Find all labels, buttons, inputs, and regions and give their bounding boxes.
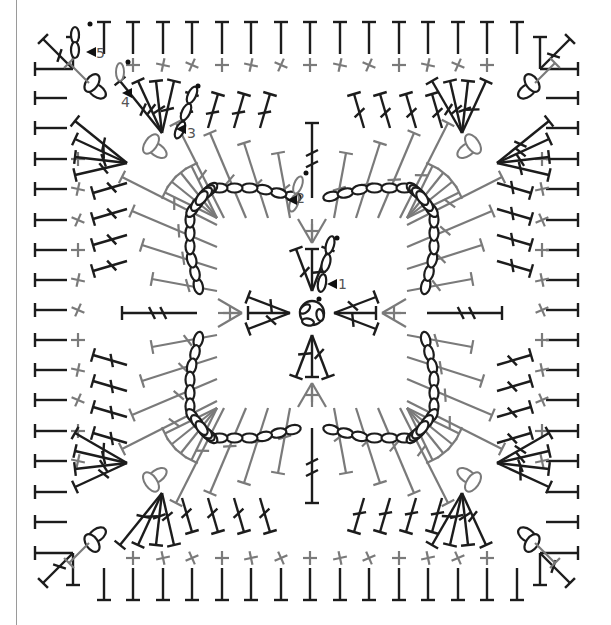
single-crochet-mark xyxy=(272,56,290,74)
single-crochet-mark xyxy=(303,58,317,72)
stitch-stem xyxy=(312,335,328,377)
single-crochet-mark xyxy=(126,551,140,565)
stitch-stem xyxy=(407,357,482,381)
slip-stitch-dot xyxy=(317,297,322,302)
outer-left-stitch xyxy=(35,91,67,105)
outer-top-stitch xyxy=(244,22,258,54)
single-crochet-mark xyxy=(420,57,437,74)
outer-right-stitch xyxy=(546,273,578,287)
chain-stitch xyxy=(382,184,398,193)
stitch-slash xyxy=(511,259,513,272)
outer-left-stitch xyxy=(35,152,67,166)
slip-stitch-dot xyxy=(304,171,309,176)
chain-stitch xyxy=(227,434,243,443)
outer-left-stitch xyxy=(35,485,67,499)
stitch-slash xyxy=(111,432,113,445)
stitch-stem xyxy=(244,143,268,218)
outer-right-stitch xyxy=(546,152,578,166)
outer-top-stitch xyxy=(333,22,347,54)
outer-bottom-stitch xyxy=(215,568,229,600)
black-fan-stitch xyxy=(91,426,127,445)
stitch-top-bar xyxy=(548,150,550,164)
outer-left-stitch xyxy=(35,273,67,287)
stitch-slash xyxy=(353,512,366,514)
stitch-top-bar xyxy=(74,462,76,476)
stitch-stem xyxy=(132,211,217,247)
sc-v xyxy=(77,273,80,287)
single-crochet-mark xyxy=(535,333,549,347)
stitch-stem xyxy=(407,245,482,269)
corner-diagonal-stitch xyxy=(540,553,575,588)
gray-fan-stitch xyxy=(334,408,353,474)
outer-right-stitch xyxy=(546,485,578,499)
sc-v xyxy=(77,182,80,196)
gray-fan-stitch xyxy=(333,152,353,218)
outer-bottom-stitch xyxy=(274,568,288,600)
gray-fan-stitch xyxy=(271,152,290,218)
sc-v xyxy=(541,182,544,196)
stitch-top-bar xyxy=(339,472,353,475)
stitch-slash xyxy=(298,353,311,354)
outer-bottom-stitch xyxy=(451,568,465,600)
stitch-stem xyxy=(210,133,246,218)
single-crochet-mark xyxy=(392,551,406,565)
outer-bottom-stitch xyxy=(97,568,111,600)
outer-left-stitch xyxy=(35,213,67,227)
sc-v xyxy=(77,363,80,377)
stitch-stem xyxy=(142,245,217,269)
outer-top-stitch xyxy=(451,22,465,54)
single-crochet-mark xyxy=(155,550,172,567)
stitch-slash xyxy=(174,391,184,400)
single-crochet-mark xyxy=(332,57,349,74)
sc-v xyxy=(427,551,430,565)
stitch-slash xyxy=(445,389,446,402)
stitch-stem xyxy=(142,357,217,381)
axis-treble xyxy=(427,306,502,320)
outer-top-stitch xyxy=(303,22,317,54)
single-crochet-mark xyxy=(303,551,317,565)
axis-treble xyxy=(305,123,319,198)
stitch-top-bar xyxy=(471,272,474,286)
chain-stitch xyxy=(242,184,258,193)
sc-v xyxy=(250,58,253,72)
single-crochet-mark xyxy=(480,58,494,72)
axis-treble xyxy=(122,306,197,320)
gray-fan-stitch xyxy=(151,335,217,354)
single-crochet-mark xyxy=(243,550,260,567)
stitch-stem xyxy=(248,313,290,329)
black-fan-stitch xyxy=(206,92,225,128)
outer-bottom-stitch xyxy=(185,568,199,600)
slip-stitch-dot xyxy=(126,60,131,65)
stitch-top-bar xyxy=(73,444,76,458)
black-fan-stitch xyxy=(232,92,251,128)
black-fan-stitch xyxy=(497,259,533,278)
outer-left-stitch xyxy=(35,515,67,529)
axis-treble xyxy=(305,428,319,503)
stitch-top-bar xyxy=(271,472,285,475)
stitch-slash xyxy=(232,112,245,114)
stitch-stem xyxy=(535,63,555,83)
stitch-slash xyxy=(111,354,113,367)
slip-stitch-dot xyxy=(196,84,201,89)
outer-left-stitch xyxy=(35,363,67,377)
single-crochet-mark xyxy=(215,58,229,72)
stitch-stem xyxy=(334,313,376,329)
stitch-top-bar xyxy=(546,427,553,439)
chain-stitch xyxy=(116,63,124,81)
stitch-stem xyxy=(540,553,570,583)
sc-v xyxy=(250,551,253,565)
stitch-slash xyxy=(178,224,179,237)
stitch-stem xyxy=(296,249,312,291)
outer-bottom-stitch xyxy=(421,568,435,600)
stitch-stem xyxy=(210,408,246,493)
stitch-slash xyxy=(511,181,513,194)
outer-top-stitch xyxy=(185,22,199,54)
stitch-stem xyxy=(132,379,217,415)
stitch-top-bar xyxy=(339,152,353,155)
stitch-stem xyxy=(69,63,89,83)
stitch-top-bar xyxy=(167,79,181,82)
center-cluster-stitch xyxy=(334,290,378,313)
center-cluster-stitch xyxy=(246,313,290,336)
stitch-stem xyxy=(43,553,73,583)
stitch-top-bar xyxy=(151,340,154,354)
